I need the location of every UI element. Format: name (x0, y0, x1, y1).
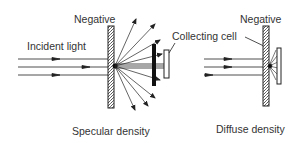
diffuse-collecting-cell (277, 48, 281, 84)
incident-light-label: Incident light (27, 40, 86, 52)
diffuse-caption: Diffuse density (216, 123, 285, 135)
specular-panel: Negative Incident light (18, 13, 237, 137)
specular-caption: Specular density (72, 125, 150, 137)
aperture-stop (152, 44, 156, 86)
diffuse-negative-label: Negative (240, 13, 282, 25)
specular-negative-label: Negative (74, 13, 116, 25)
specular-collecting-cell (164, 50, 169, 78)
incident-rays (18, 58, 108, 77)
transmitted-beam (115, 64, 166, 68)
density-diagram: Negative Incident light (0, 0, 304, 143)
diffuse-incident-rays (204, 58, 263, 77)
collecting-cell-leader (169, 43, 175, 53)
collecting-cell-label: Collecting cell (172, 30, 237, 42)
